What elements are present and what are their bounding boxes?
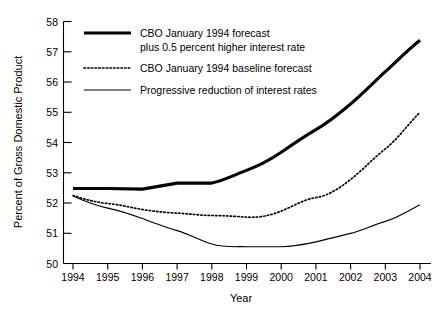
legend-label-3-line1: Progressive reduction of interest rates [140,84,317,96]
y-tick-label-51: 51 [46,227,58,239]
x-tick-label-2001: 2001 [304,271,328,283]
y-tick-label-52: 52 [46,197,58,209]
x-tick-label-2003: 2003 [374,271,398,283]
y-tick-label-55: 55 [46,106,58,118]
y-tick-label-53: 53 [46,167,58,179]
legend-label-1-line1: CBO January 1994 forecast [140,27,270,39]
y-axis-title: Percent of Gross Domestic Product [12,56,24,228]
x-tick-label-1999: 1999 [235,271,259,283]
x-axis-title: Year [230,292,253,304]
y-tick-label-56: 56 [46,76,58,88]
y-tick-label-57: 57 [46,46,58,58]
y-tick-labels: 58 57 56 55 54 53 52 51 50 [46,16,58,270]
y-tick-marks [64,22,72,264]
legend-label-1-line2: plus 0.5 percent higher interest rate [140,41,305,53]
chart-legend: CBO January 1994 forecast plus 0.5 perce… [84,27,317,96]
x-tick-labels: 1994 1995 1996 1997 1998 1999 2000 2001 … [61,271,432,283]
series-line-dotted-baseline [73,112,420,217]
x-tick-label-1998: 1998 [200,271,224,283]
y-tick-label-54: 54 [46,137,58,149]
line-chart-plot: 58 57 56 55 54 53 52 51 50 1994 [0,0,441,311]
x-tick-marks [73,264,420,270]
x-tick-label-1997: 1997 [165,271,189,283]
chart-figure: 58 57 56 55 54 53 52 51 50 1994 [0,0,441,311]
x-tick-label-1995: 1995 [96,271,120,283]
legend-label-2-line1: CBO January 1994 baseline forecast [140,62,312,74]
x-tick-label-2002: 2002 [339,271,363,283]
y-tick-label-58: 58 [46,16,58,28]
x-tick-label-2000: 2000 [270,271,294,283]
x-tick-label-1994: 1994 [61,271,85,283]
series-line-thin-progressive [73,196,420,247]
x-tick-label-1996: 1996 [131,271,155,283]
x-tick-label-2004: 2004 [408,271,432,283]
y-tick-label-50: 50 [46,258,58,270]
